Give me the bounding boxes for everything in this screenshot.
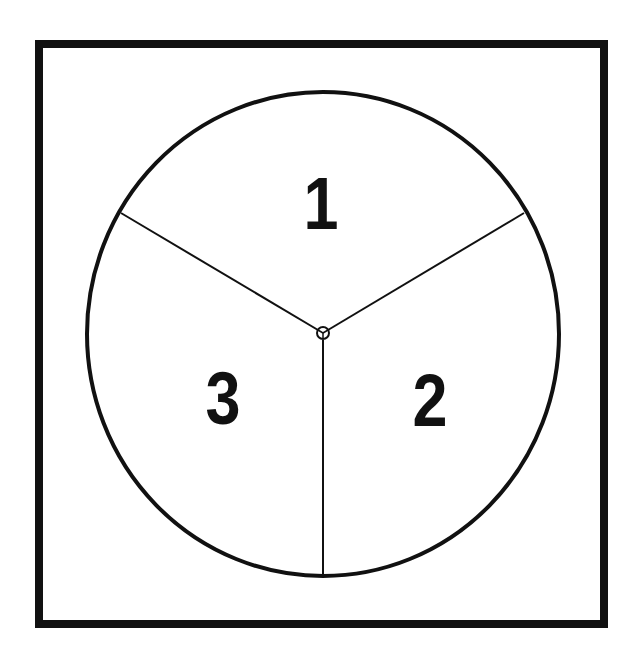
spinner-diagram: 1 2 3 (0, 0, 640, 666)
section-label-2: 2 (413, 359, 448, 442)
section-label-1: 1 (303, 162, 338, 245)
section-label-3: 3 (206, 357, 241, 440)
